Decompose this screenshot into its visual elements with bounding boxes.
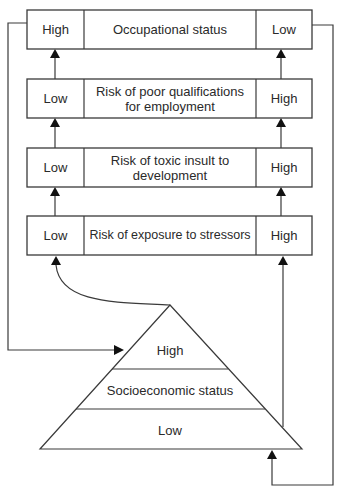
row-1-left-label: Low — [27, 79, 84, 118]
row-2-left-label: Low — [27, 148, 84, 187]
arrow-head-icon — [276, 118, 286, 127]
arrow-head-icon — [276, 49, 286, 58]
row-0-right-label: Low — [256, 10, 312, 49]
arrow-head-icon — [50, 118, 60, 127]
arrow-head-icon — [267, 450, 277, 459]
row-1-right-label: High — [256, 79, 312, 118]
arrow-head-icon — [278, 256, 288, 265]
connector-curve — [56, 265, 170, 305]
row-3-center-label: Risk of exposure to stressors — [84, 216, 256, 255]
arrow-head-icon — [51, 256, 61, 265]
row-0-center-label: Occupational status — [84, 10, 256, 49]
arrow-head-icon — [276, 187, 286, 196]
row-2-right-label: High — [256, 148, 312, 187]
arrow-head-icon — [50, 187, 60, 196]
row-1-center-label: Risk of poor qualifications for employme… — [92, 79, 248, 118]
row-3-right-label: High — [256, 216, 312, 255]
row-0-left-label: High — [27, 10, 84, 49]
row-2-center-label: Risk of toxic insult to development — [100, 148, 240, 187]
arrow-head-icon — [50, 49, 60, 58]
pyramid-bottom-label: Low — [120, 420, 220, 440]
row-3-left-label: Low — [27, 216, 84, 255]
pyramid-top-label: High — [120, 340, 220, 360]
pyramid-middle-label: Socioeconomic status — [90, 380, 250, 400]
